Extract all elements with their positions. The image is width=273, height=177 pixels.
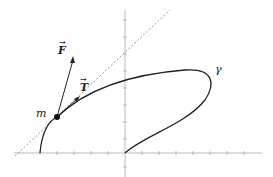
curve-gamma <box>40 70 211 153</box>
tangent-label: →T <box>80 82 88 93</box>
diagram-canvas <box>0 0 273 177</box>
tangent-line <box>15 10 170 156</box>
mass-label: m <box>36 108 46 119</box>
x-axis <box>14 151 262 155</box>
mass-point <box>54 114 60 120</box>
force-label: →F <box>58 45 66 56</box>
force-arrowhead <box>70 56 75 63</box>
curve-label: γ <box>215 64 222 75</box>
